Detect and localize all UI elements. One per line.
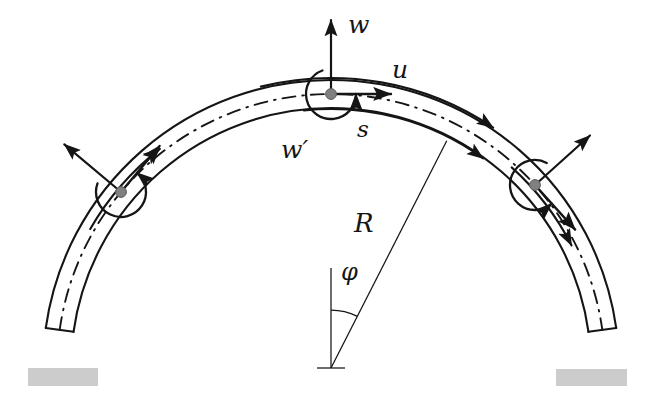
support-blocks	[28, 368, 627, 386]
node-markers	[116, 89, 541, 198]
diagram-canvas	[0, 0, 657, 400]
label-u: u	[392, 57, 408, 82]
left-node-marker	[116, 187, 127, 198]
right-node-marker	[530, 180, 541, 191]
label-R-radius: R	[354, 210, 374, 236]
tangential-displacement-arrows	[90, 78, 571, 245]
left-support-block	[28, 368, 98, 386]
left-node-radial-arrow-w	[64, 144, 121, 192]
radius-angle-construction	[317, 141, 447, 368]
label-phi-angle: φ	[341, 260, 358, 284]
radius-line-R	[331, 141, 447, 368]
label-w-prime: w′	[281, 137, 308, 162]
apex-node-marker	[326, 89, 337, 100]
label-w: w	[348, 12, 369, 37]
tangential-arrow-inner-apex-right	[304, 109, 483, 158]
right-node-dof-group	[510, 135, 590, 229]
label-s: s	[357, 118, 369, 141]
right-support-block	[556, 369, 627, 386]
node-dof-arrows	[64, 20, 590, 230]
arch-diagram-figure: w u s w′ R φ	[0, 0, 657, 400]
tangential-arrow-outer-apex-right	[261, 78, 493, 128]
phi-angle-arc	[331, 310, 357, 316]
